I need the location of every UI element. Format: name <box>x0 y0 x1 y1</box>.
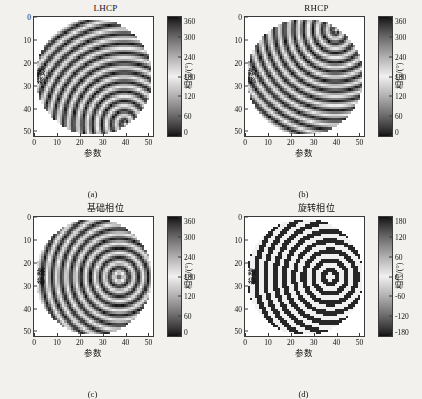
colorbar-tick-mark <box>178 96 181 97</box>
x-tick-mark <box>80 333 81 336</box>
panel-d-heatmap <box>245 217 364 336</box>
x-tick-mark <box>268 333 269 336</box>
panel-b-colorbar-label-text: 相位/(°) <box>395 41 404 111</box>
panel-d-title: 旋转相位 <box>211 203 422 214</box>
x-tick-mark <box>337 333 338 336</box>
panel-b-title: RHCP <box>211 3 422 14</box>
panel-c-heatmap <box>34 217 153 336</box>
y-tick-label: 30 <box>235 281 243 290</box>
x-tick-mark <box>359 333 360 336</box>
y-tick-label: 20 <box>235 258 243 267</box>
y-tick-mark <box>245 108 248 109</box>
x-tick-label: 50 <box>356 338 364 347</box>
x-tick-mark <box>126 133 127 136</box>
panel-c: 基础相位 0102030405001020304050 参数 参数 360300… <box>0 200 211 399</box>
y-tick-label: 30 <box>24 281 32 290</box>
x-tick-mark <box>34 133 35 136</box>
x-tick-mark <box>245 133 246 136</box>
panel-c-axes: 0102030405001020304050 <box>33 216 154 337</box>
y-tick-label: 0 <box>238 213 242 222</box>
x-tick-label: 40 <box>122 138 130 147</box>
x-tick-mark <box>314 133 315 136</box>
colorbar-tick-mark <box>389 56 392 57</box>
colorbar-tick-mark <box>178 56 181 57</box>
panel-a-heatmap <box>34 17 153 136</box>
y-tick-label: 30 <box>235 81 243 90</box>
panel-b-colorbar-label: 相位/(°) <box>394 16 404 135</box>
x-tick-mark <box>314 333 315 336</box>
y-tick-mark <box>245 308 248 309</box>
y-tick-label: 0 <box>27 13 31 22</box>
y-tick-label: 50 <box>24 127 32 136</box>
panel-d-ylabel: 参数 <box>247 246 257 306</box>
y-tick-label: 20 <box>235 58 243 67</box>
y-tick-label: 10 <box>24 35 32 44</box>
panel-c-colorbar-label-text: 相位/(°) <box>184 241 193 311</box>
panel-c-xlabel: 参数 <box>33 348 152 358</box>
y-tick-label: 10 <box>235 235 243 244</box>
x-tick-mark <box>359 133 360 136</box>
panel-c-colorbar-label: 相位/(°) <box>183 216 193 335</box>
x-tick-mark <box>103 333 104 336</box>
x-tick-label: 30 <box>99 138 107 147</box>
colorbar-tick-mark <box>389 36 392 37</box>
y-tick-label: 40 <box>235 304 243 313</box>
colorbar-tick-mark <box>178 217 181 218</box>
y-tick-label: 50 <box>235 127 243 136</box>
x-tick-mark <box>245 333 246 336</box>
x-tick-label: 40 <box>333 338 341 347</box>
colorbar-tick-mark <box>389 17 392 18</box>
colorbar-tick-mark <box>178 336 181 337</box>
colorbar-tick-mark <box>389 136 392 137</box>
panel-a-ylabel: 参数 <box>36 46 46 106</box>
panel-d-colorbar-label-text: 相位/(°) <box>395 241 404 311</box>
colorbar-tick-mark <box>178 316 181 317</box>
y-tick-label: 10 <box>24 235 32 244</box>
y-tick-mark <box>34 308 37 309</box>
panel-a-colorbar: 360300240180120600 <box>167 16 182 137</box>
x-tick-label: 10 <box>264 338 272 347</box>
colorbar-tick-mark <box>389 217 392 218</box>
x-tick-label: 0 <box>32 138 36 147</box>
x-tick-label: 40 <box>333 138 341 147</box>
x-tick-label: 20 <box>287 138 295 147</box>
panel-d: 旋转相位 0102030405001020304050 参数 参数 180120… <box>211 200 422 399</box>
colorbar-tick-mark <box>178 36 181 37</box>
x-tick-label: 0 <box>32 338 36 347</box>
panel-b-heatmap <box>245 17 364 136</box>
y-tick-label: 0 <box>27 213 31 222</box>
x-tick-label: 20 <box>76 338 84 347</box>
panel-a-colorbar-label-text: 相位/(°) <box>184 41 193 111</box>
y-tick-mark <box>34 217 37 218</box>
panel-a: LHCP 0102030405001020304050 参数 参数 360300… <box>0 0 211 199</box>
x-tick-mark <box>268 133 269 136</box>
colorbar-tick-mark <box>389 236 392 237</box>
x-tick-label: 0 <box>243 138 247 147</box>
x-tick-mark <box>337 133 338 136</box>
y-tick-label: 0 <box>238 13 242 22</box>
panel-b-caption: (b) <box>211 189 396 199</box>
panel-d-colorbar-label: 相位/(°) <box>394 216 404 335</box>
x-tick-mark <box>80 133 81 136</box>
panel-b-xlabel: 参数 <box>244 148 363 158</box>
y-tick-label: 40 <box>235 104 243 113</box>
x-tick-label: 10 <box>264 138 272 147</box>
panel-a-axes: 0102030405001020304050 <box>33 16 154 137</box>
colorbar-tick-mark <box>178 76 181 77</box>
x-tick-label: 30 <box>310 338 318 347</box>
panel-b-colorbar: 360300240180120600 <box>378 16 393 137</box>
colorbar-tick-mark <box>389 76 392 77</box>
y-tick-mark <box>245 131 248 132</box>
y-tick-label: 50 <box>24 327 32 336</box>
panel-a-xlabel: 参数 <box>33 148 152 158</box>
y-tick-mark <box>245 39 248 40</box>
colorbar-tick-mark <box>389 256 392 257</box>
panel-b-axes: 0102030405001020304050 <box>244 16 365 137</box>
y-tick-label: 40 <box>24 104 32 113</box>
y-tick-label: 20 <box>24 58 32 67</box>
panel-c-title: 基础相位 <box>0 203 211 214</box>
colorbar-tick-mark <box>178 256 181 257</box>
x-tick-label: 20 <box>76 138 84 147</box>
y-tick-mark <box>34 17 37 18</box>
y-tick-mark <box>245 331 248 332</box>
